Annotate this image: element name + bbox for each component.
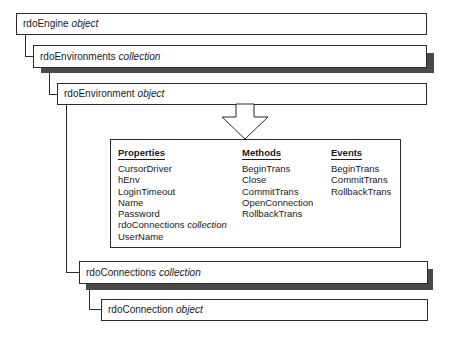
environment-detail-panel: Properties CursorDriver hEnv LoginTimeou… (110, 139, 401, 248)
event-item[interactable]: BeginTrans (331, 163, 391, 174)
properties-column: Properties CursorDriver hEnv LoginTimeou… (118, 147, 227, 242)
method-item[interactable]: BeginTrans (242, 163, 313, 174)
property-kind: collection (187, 219, 227, 230)
method-item[interactable]: RollbackTrans (242, 208, 313, 219)
events-header: Events (331, 147, 362, 160)
property-item[interactable]: hEnv (118, 174, 227, 185)
event-item[interactable]: CommitTrans (331, 174, 391, 185)
property-item[interactable]: rdoConnections collection (118, 219, 227, 230)
properties-header: Properties (118, 147, 165, 160)
property-item[interactable]: Name (118, 197, 227, 208)
property-item[interactable]: Password (118, 208, 227, 219)
property-item[interactable]: LoginTimeout (118, 186, 227, 197)
events-column: Events BeginTrans CommitTrans RollbackTr… (331, 147, 391, 197)
methods-header: Methods (242, 147, 281, 160)
method-item[interactable]: Close (242, 174, 313, 185)
method-item[interactable]: CommitTrans (242, 186, 313, 197)
property-name: rdoConnections (118, 219, 185, 230)
property-item[interactable]: CursorDriver (118, 163, 227, 174)
method-item[interactable]: OpenConnection (242, 197, 313, 208)
event-item[interactable]: RollbackTrans (331, 186, 391, 197)
property-item[interactable]: UserName (118, 231, 227, 242)
methods-column: Methods BeginTrans Close CommitTrans Ope… (242, 147, 313, 219)
